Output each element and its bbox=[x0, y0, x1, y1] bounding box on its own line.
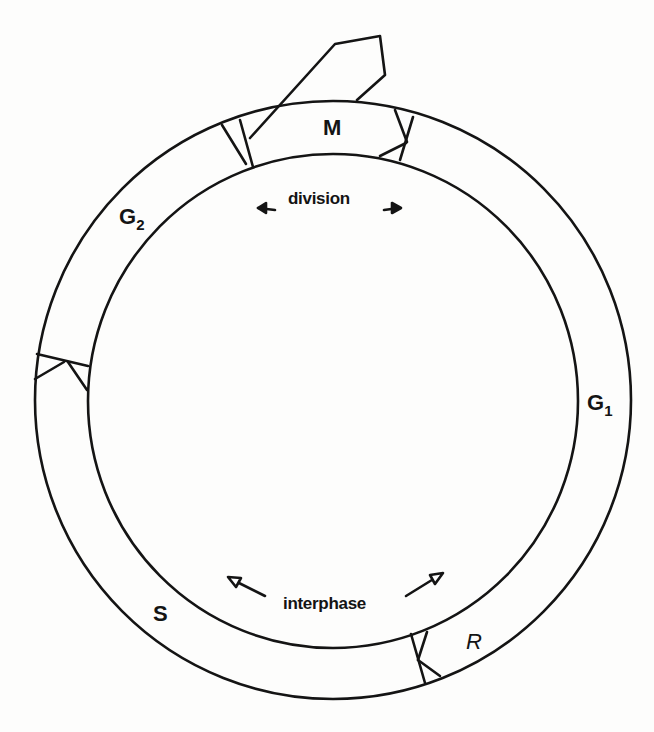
g2-s-boundary-icon bbox=[35, 354, 88, 390]
diagram-page: M G2 G1 S R division interphase bbox=[0, 0, 654, 732]
interphase-arrow-right-icon bbox=[406, 573, 443, 596]
phase-label-m: M bbox=[323, 117, 341, 139]
division-text: division bbox=[288, 189, 350, 208]
checkpoint-flag-icon bbox=[250, 36, 385, 138]
phase-label-s: S bbox=[153, 603, 168, 625]
phase-s-text: S bbox=[153, 601, 168, 626]
phase-label-g2: G2 bbox=[119, 206, 144, 232]
cell-cycle-diagram bbox=[0, 0, 654, 732]
phase-g1-subscript: 1 bbox=[604, 402, 612, 419]
division-zone-label: division bbox=[288, 190, 350, 207]
phase-g2-text: G bbox=[119, 204, 136, 229]
m-left-boundary-icon bbox=[222, 120, 253, 167]
restriction-point-text: R bbox=[466, 629, 482, 654]
restriction-point-marker-icon bbox=[411, 632, 440, 683]
division-arrow-left-icon bbox=[258, 203, 275, 213]
interphase-arrow-left-icon bbox=[228, 577, 265, 596]
interphase-text: interphase bbox=[283, 594, 366, 613]
phase-label-g1: G1 bbox=[587, 392, 612, 418]
m-right-boundary-icon bbox=[380, 110, 413, 160]
phase-g2-subscript: 2 bbox=[136, 216, 144, 233]
phase-g1-text: G bbox=[587, 390, 604, 415]
restriction-point-label: R bbox=[466, 631, 482, 653]
interphase-zone-label: interphase bbox=[283, 595, 366, 612]
phase-m-text: M bbox=[323, 115, 341, 140]
inner-ring bbox=[88, 154, 578, 648]
division-arrow-right-icon bbox=[384, 203, 401, 213]
